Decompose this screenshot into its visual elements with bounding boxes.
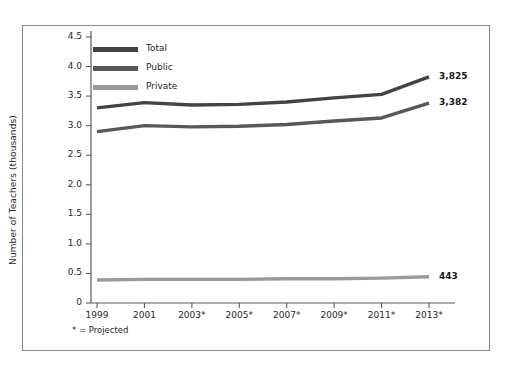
x-tick-label: 2007*: [265, 310, 309, 320]
chart-frame-border: [22, 25, 490, 351]
y-tick-label: 4.0: [56, 61, 82, 71]
end-value-label-public: 3,382: [439, 97, 467, 107]
x-tick-label: 2009*: [312, 310, 356, 320]
y-tick-label: 3.0: [56, 120, 82, 130]
y-tick-label: 1.0: [56, 238, 82, 248]
x-tick-label: 2013*: [407, 310, 451, 320]
x-tick-label: 1999: [75, 310, 119, 320]
y-tick-label: 4.5: [56, 31, 82, 41]
legend-swatch-private: [93, 85, 138, 90]
chart-figure: Number of Teachers (thousands) 00.51.01.…: [0, 0, 509, 374]
x-tick-label: 2011*: [360, 310, 404, 320]
y-tick-label: 1.5: [56, 208, 82, 218]
x-tick-label: 2001: [122, 310, 166, 320]
legend-swatch-total: [93, 47, 138, 52]
y-tick-label: 0.5: [56, 267, 82, 277]
end-value-label-total: 3,825: [439, 71, 467, 81]
x-tick-label: 2005*: [217, 310, 261, 320]
y-tick-label: 2.0: [56, 179, 82, 189]
legend-label-public: Public: [146, 62, 173, 72]
end-value-label-private: 443: [439, 271, 458, 281]
legend-swatch-public: [93, 66, 138, 71]
x-tick-label: 2003*: [170, 310, 214, 320]
projection-footnote: * = Projected: [72, 325, 128, 335]
legend-label-private: Private: [146, 81, 177, 91]
legend-label-total: Total: [146, 43, 167, 53]
y-tick-label: 3.5: [56, 90, 82, 100]
y-axis-title: Number of Teachers (thousands): [8, 115, 18, 265]
y-tick-label: 0: [56, 297, 82, 307]
y-tick-label: 2.5: [56, 149, 82, 159]
